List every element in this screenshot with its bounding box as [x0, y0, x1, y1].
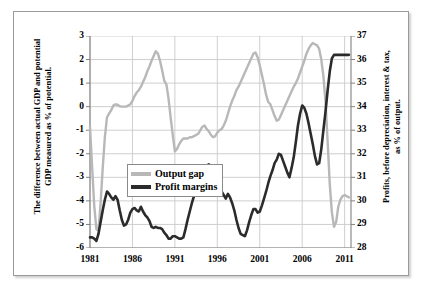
- left-tick-label: -2: [66, 148, 84, 158]
- legend-item-profit-margins: Profit margins: [131, 180, 217, 193]
- x-tick-label: 1981: [70, 254, 110, 264]
- left-tick-label: -3: [66, 171, 84, 181]
- left-tick-label: -1: [66, 124, 84, 134]
- legend-swatch-output-gap: [131, 172, 151, 176]
- x-tick-label: 1996: [197, 254, 237, 264]
- left-tick-label: -6: [66, 242, 84, 252]
- left-axis-title-line2: GDP measured as % of potential.: [43, 20, 54, 234]
- axis-lines: [86, 36, 355, 248]
- plot-area: [77, 36, 364, 248]
- chart-canvas: [77, 36, 364, 248]
- right-axis-title-line1: Profits, before depreciation, interest &…: [382, 20, 393, 234]
- right-tick-label: 36: [357, 54, 377, 64]
- right-tick-label: 30: [357, 195, 377, 205]
- right-axis-title-line2: as % of output.: [392, 20, 403, 234]
- right-tick-label: 29: [357, 218, 377, 228]
- left-tick-label: 3: [66, 30, 84, 40]
- left-tick-label: 0: [66, 101, 84, 111]
- chart-legend: Output gap Profit margins: [127, 164, 223, 197]
- right-tick-label: 28: [357, 242, 377, 252]
- x-tick-label: 2006: [282, 254, 322, 264]
- right-tick-label: 32: [357, 148, 377, 158]
- right-tick-label: 31: [357, 171, 377, 181]
- legend-swatch-profit-margins: [131, 185, 151, 189]
- right-axis-title: Profits, before depreciation, interest &…: [382, 20, 403, 234]
- left-tick-label: 1: [66, 77, 84, 87]
- right-tick-label: 33: [357, 124, 377, 134]
- left-axis-title-line1: The difference between actual GDP and po…: [33, 20, 44, 234]
- x-tick-label: 2001: [240, 254, 280, 264]
- right-tick-label: 37: [357, 30, 377, 40]
- legend-item-output-gap: Output gap: [131, 167, 217, 180]
- data-series: [90, 43, 349, 241]
- x-tick-label: 1986: [112, 254, 152, 264]
- legend-label-output-gap: Output gap: [155, 167, 204, 180]
- left-tick-label: -5: [66, 218, 84, 228]
- x-tick-label: 2011: [325, 254, 365, 264]
- left-tick-label: -4: [66, 195, 84, 205]
- legend-label-profit-margins: Profit margins: [155, 180, 217, 193]
- right-tick-label: 34: [357, 101, 377, 111]
- x-tick-label: 1991: [155, 254, 195, 264]
- left-tick-label: 2: [66, 54, 84, 64]
- left-axis-title: The difference between actual GDP and po…: [33, 20, 54, 234]
- right-tick-label: 35: [357, 77, 377, 87]
- chart-frame: The difference between actual GDP and po…: [13, 11, 409, 276]
